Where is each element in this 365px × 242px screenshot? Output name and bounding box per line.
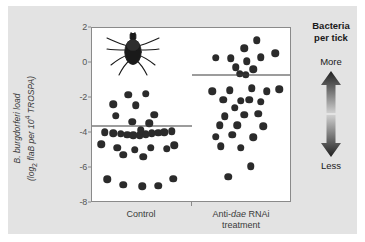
data-point (254, 110, 262, 118)
data-point (233, 121, 241, 129)
data-point (249, 65, 257, 73)
data-point (241, 44, 249, 52)
y-axis-tick-label: -6 (79, 162, 87, 172)
x-axis-label-control-text: Control (86, 209, 196, 220)
x-axis-center-tick (191, 202, 192, 206)
data-point (241, 111, 249, 119)
data-point (248, 85, 256, 93)
x-axis-label-treatment-line2: treatment (186, 220, 296, 231)
data-point (257, 98, 265, 106)
y-axis-tick-label: -8 (79, 197, 87, 207)
data-point (216, 121, 224, 129)
data-point (253, 37, 261, 45)
data-point (263, 87, 271, 95)
data-point (217, 142, 225, 150)
data-point (112, 112, 120, 120)
data-point (220, 96, 228, 104)
data-point (151, 111, 159, 119)
data-point (138, 183, 146, 191)
treatment-prefix: Anti- (212, 209, 231, 219)
data-point (125, 91, 133, 99)
data-point (154, 182, 162, 190)
data-point (259, 122, 267, 130)
data-point (243, 58, 251, 66)
data-point (131, 146, 139, 154)
data-point (212, 54, 220, 62)
legend: Bacteria per tick More (296, 20, 365, 171)
data-point (221, 113, 229, 121)
x-axis-label-control: Control (86, 209, 196, 220)
data-point (237, 97, 245, 105)
data-point (120, 181, 128, 189)
legend-title-line1: Bacteria (296, 20, 365, 32)
data-point (225, 173, 233, 181)
data-point (247, 163, 255, 171)
data-point (161, 128, 169, 136)
data-point (170, 142, 178, 150)
data-point (237, 144, 245, 152)
data-point (257, 54, 265, 62)
figure-panel: B. burgdorferi load (log2 flaB per 104 T… (8, 6, 357, 234)
data-point (246, 96, 254, 104)
y-axis-tick-label: -4 (79, 127, 87, 137)
y-axis-ticks: 20-2-4-6-8 (8, 27, 91, 202)
data-point (249, 134, 257, 142)
figure-root: B. burgdorferi load (log2 flaB per 104 T… (0, 0, 365, 242)
data-point (132, 101, 140, 109)
data-point (226, 86, 234, 94)
data-point (272, 50, 280, 58)
legend-title-line2: per tick (296, 32, 365, 44)
data-point (231, 104, 239, 112)
x-axis-label-treatment-line1: Anti-dae RNAi (186, 209, 296, 220)
legend-more-label: More (296, 56, 365, 67)
treatment-gene-name: dae (231, 209, 246, 219)
mean-line (92, 126, 192, 127)
data-point (212, 133, 220, 141)
y-axis-tick-label: 2 (82, 22, 87, 32)
y-axis-tick-label: -2 (79, 92, 87, 102)
data-point (208, 87, 216, 95)
data-point (104, 176, 112, 184)
data-point (110, 129, 118, 137)
data-point (101, 128, 109, 136)
data-point (120, 151, 128, 159)
data-point (168, 128, 176, 136)
data-point (228, 131, 236, 139)
plot-frame (91, 27, 291, 202)
legend-title: Bacteria per tick (296, 20, 365, 44)
double-arrow-icon (318, 70, 344, 158)
data-point (169, 175, 177, 183)
y-axis-tick-label: 0 (82, 57, 87, 67)
mean-line (192, 75, 290, 76)
data-point (275, 86, 283, 94)
data-point (147, 144, 155, 152)
data-point (139, 153, 147, 161)
data-point (227, 54, 235, 62)
data-point (128, 118, 136, 126)
legend-less-label: Less (296, 160, 365, 171)
data-point (142, 90, 150, 98)
tick-illustration (106, 32, 160, 78)
data-point (110, 100, 118, 108)
x-axis-label-treatment: Anti-dae RNAi treatment (186, 209, 296, 232)
treatment-suffix: RNAi (246, 209, 270, 219)
data-point (137, 127, 145, 135)
plot-area (92, 28, 290, 201)
data-point (97, 141, 105, 149)
data-point (113, 144, 121, 152)
data-point (163, 145, 171, 153)
